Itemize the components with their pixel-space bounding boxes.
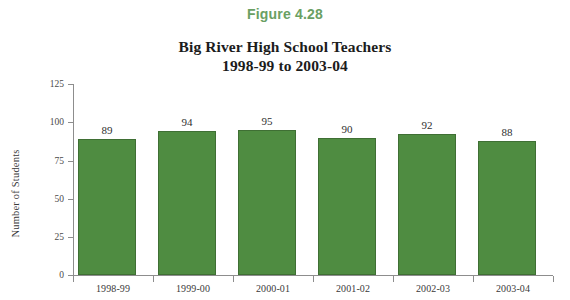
bar-1999-00[interactable] xyxy=(158,131,216,275)
bar-value-1998-99: 89 xyxy=(78,124,136,136)
chart-title-line-1: Big River High School Teachers xyxy=(179,38,392,55)
x-axis-label-1999-00: 1999-00 xyxy=(153,283,233,295)
x-axis-label-2001-02: 2001-02 xyxy=(313,283,393,295)
y-axis-label-100: 100 xyxy=(34,117,64,127)
x-axis-tick xyxy=(73,276,74,282)
y-axis-label-text: 25 xyxy=(36,232,64,242)
y-axis-label-text: 0 xyxy=(36,270,64,280)
y-axis-tick xyxy=(68,84,74,85)
y-axis-label-125: 125 xyxy=(34,79,64,89)
x-axis-label-2003-04: 2003-04 xyxy=(473,283,553,295)
bar-value-2003-04: 88 xyxy=(478,126,536,138)
y-axis-label-text: 125 xyxy=(36,79,64,89)
y-axis-label-50: 50 xyxy=(34,194,64,204)
bar-value-2001-02: 90 xyxy=(318,123,376,135)
bar-1998-99[interactable] xyxy=(78,139,136,275)
x-axis-label-2000-01: 2000-01 xyxy=(233,283,313,295)
y-axis-label-text: 50 xyxy=(36,194,64,204)
x-axis-tick xyxy=(153,276,154,282)
y-axis-label-25: 25 xyxy=(34,232,64,242)
y-axis-label-0: 0 xyxy=(34,270,64,280)
figure-container: Figure 4.28 Big River High School Teache… xyxy=(0,0,570,300)
bar-2001-02[interactable] xyxy=(318,138,376,275)
x-axis-tick xyxy=(473,276,474,282)
y-axis-label-text: 100 xyxy=(36,117,64,127)
x-axis-tick xyxy=(553,276,554,282)
chart-title-line-2: 1998-99 to 2003-04 xyxy=(0,56,570,75)
y-axis-title: Number of Students xyxy=(10,114,21,274)
x-axis-tick xyxy=(393,276,394,282)
y-axis-tick xyxy=(68,199,74,200)
y-axis-label-75: 75 xyxy=(34,156,64,166)
bar-2003-04[interactable] xyxy=(478,141,536,275)
bar-2002-03[interactable] xyxy=(398,134,456,275)
x-axis-tick xyxy=(313,276,314,282)
chart-title: Big River High School Teachers 1998-99 t… xyxy=(0,37,570,75)
bar-value-2002-03: 92 xyxy=(398,119,456,131)
x-axis-label-2002-03: 2002-03 xyxy=(393,283,473,295)
y-axis-label-text: 75 xyxy=(36,156,64,166)
bar-2000-01[interactable] xyxy=(238,130,296,275)
bar-value-1999-00: 94 xyxy=(158,116,216,128)
y-axis-tick xyxy=(68,122,74,123)
figure-caption: Figure 4.28 xyxy=(0,6,570,22)
y-axis-tick xyxy=(68,161,74,162)
y-axis-line xyxy=(73,84,74,276)
x-axis-tick xyxy=(233,276,234,282)
x-axis-label-1998-99: 1998-99 xyxy=(73,283,153,295)
y-axis-tick xyxy=(68,237,74,238)
bar-value-2000-01: 95 xyxy=(238,115,296,127)
